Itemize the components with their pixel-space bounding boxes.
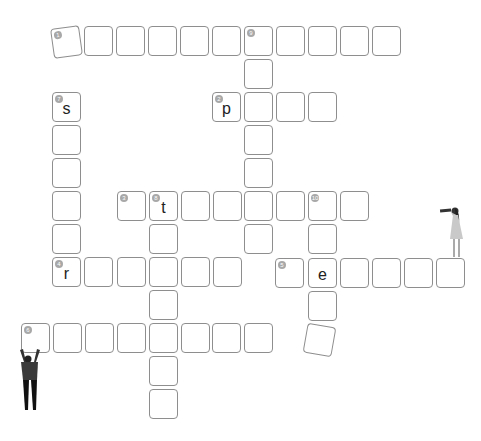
crossword-cell[interactable] bbox=[53, 323, 82, 353]
crossword-cell[interactable] bbox=[181, 191, 210, 221]
clue-number-badge: 10 bbox=[311, 194, 319, 202]
crossword-cell[interactable] bbox=[52, 158, 81, 188]
crossword-cell[interactable] bbox=[404, 258, 433, 288]
crossword-cell[interactable]: 8t bbox=[149, 191, 178, 221]
clue-number-badge: 8 bbox=[152, 194, 160, 202]
crossword-cell[interactable] bbox=[276, 26, 305, 56]
crossword-cell[interactable] bbox=[149, 257, 178, 287]
crossword-cell[interactable] bbox=[372, 258, 401, 288]
crossword-cell[interactable] bbox=[303, 323, 337, 358]
crossword-cell[interactable] bbox=[276, 191, 305, 221]
cell-letter: r bbox=[64, 265, 69, 283]
crossword-cell[interactable] bbox=[149, 389, 178, 419]
crossword-cell[interactable] bbox=[276, 92, 305, 122]
crossword-cell[interactable] bbox=[340, 191, 369, 221]
cell-letter: s bbox=[63, 100, 71, 118]
crossword-cell[interactable] bbox=[52, 191, 81, 221]
crossword-cell[interactable] bbox=[308, 26, 337, 56]
crossword-cell[interactable] bbox=[85, 323, 114, 353]
crossword-cell[interactable] bbox=[84, 26, 113, 56]
crossword-cell[interactable] bbox=[148, 26, 177, 56]
crossword-cell[interactable] bbox=[84, 257, 113, 287]
crossword-cell[interactable] bbox=[213, 191, 242, 221]
cell-letter: e bbox=[318, 266, 327, 284]
crossword-cell[interactable] bbox=[308, 291, 337, 321]
man-holding-tile-illustration bbox=[16, 348, 44, 414]
woman-telescope-illustration bbox=[438, 203, 468, 261]
clue-number-badge: 5 bbox=[278, 261, 286, 269]
crossword-cell[interactable] bbox=[244, 125, 273, 155]
clue-number-badge: 1 bbox=[53, 31, 62, 40]
crossword-cell[interactable] bbox=[149, 290, 178, 320]
crossword-cell[interactable]: 4r bbox=[52, 257, 81, 287]
crossword-cell[interactable]: 3 bbox=[117, 191, 146, 221]
crossword-cell[interactable] bbox=[212, 26, 241, 56]
cell-letter: p bbox=[222, 100, 231, 118]
clue-number-badge: 2 bbox=[215, 95, 223, 103]
crossword-cell[interactable] bbox=[149, 224, 178, 254]
crossword-cell[interactable]: 7s bbox=[52, 92, 81, 122]
clue-number-badge: 4 bbox=[55, 260, 63, 268]
crossword-cell[interactable] bbox=[340, 26, 369, 56]
crossword-cell[interactable] bbox=[244, 191, 273, 221]
crossword-cell[interactable] bbox=[116, 26, 145, 56]
crossword-cell[interactable] bbox=[213, 257, 242, 287]
crossword-cell[interactable] bbox=[212, 323, 241, 353]
crossword-cell[interactable] bbox=[52, 224, 81, 254]
crossword-cell[interactable]: 10 bbox=[308, 191, 337, 221]
crossword-cell[interactable] bbox=[244, 323, 273, 353]
crossword-cell[interactable] bbox=[149, 323, 178, 353]
clue-number-badge: 9 bbox=[247, 29, 255, 37]
clue-number-badge: 7 bbox=[55, 95, 63, 103]
crossword-cell[interactable]: 2p bbox=[212, 92, 241, 122]
crossword-cell[interactable] bbox=[180, 26, 209, 56]
crossword-cell[interactable] bbox=[244, 92, 273, 122]
crossword-cell[interactable] bbox=[149, 356, 178, 386]
crossword-cell[interactable]: 1 bbox=[50, 25, 83, 59]
crossword-cell[interactable] bbox=[340, 258, 369, 288]
crossword-cell[interactable] bbox=[308, 92, 337, 122]
crossword-cell[interactable] bbox=[117, 323, 146, 353]
crossword-cell[interactable] bbox=[117, 257, 146, 287]
crossword-cell[interactable] bbox=[181, 257, 210, 287]
crossword-cell[interactable] bbox=[52, 125, 81, 155]
clue-number-badge: 3 bbox=[120, 194, 128, 202]
crossword-cell[interactable]: 5 bbox=[275, 258, 304, 288]
crossword-cell[interactable] bbox=[308, 224, 337, 254]
crossword-cell[interactable] bbox=[244, 224, 273, 254]
crossword-cell[interactable] bbox=[181, 323, 210, 353]
crossword-cell[interactable] bbox=[436, 258, 465, 288]
cell-letter: t bbox=[161, 199, 165, 217]
crossword-cell[interactable] bbox=[244, 158, 273, 188]
crossword-cell[interactable] bbox=[244, 59, 273, 89]
clue-number-badge: 6 bbox=[24, 326, 32, 334]
crossword-cell[interactable]: 9 bbox=[244, 26, 273, 56]
crossword-cell[interactable] bbox=[372, 26, 401, 56]
crossword-cell[interactable]: e bbox=[308, 258, 337, 288]
